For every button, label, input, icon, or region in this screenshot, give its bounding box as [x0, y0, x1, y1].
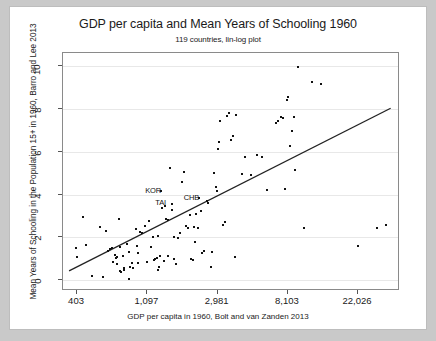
y-axis-label: Mean Years of Schooling in the Populatio… — [29, 17, 38, 307]
data-point — [303, 227, 305, 229]
data-point — [222, 224, 224, 226]
data-point — [250, 174, 252, 176]
data-point — [294, 169, 296, 171]
data-point — [141, 232, 143, 234]
data-point — [207, 202, 209, 204]
data-point — [105, 230, 107, 232]
data-point — [357, 245, 359, 247]
data-point — [173, 236, 175, 238]
data-point — [152, 236, 154, 238]
data-point — [119, 246, 121, 248]
data-point — [275, 122, 277, 124]
data-point — [218, 141, 220, 143]
data-point — [385, 224, 387, 226]
data-point — [217, 148, 219, 150]
data-point — [234, 256, 236, 258]
x-tick-label: 1,097 — [134, 295, 158, 306]
data-point — [85, 244, 87, 246]
y-tick-label: 0 — [32, 279, 43, 284]
data-point — [122, 255, 124, 257]
data-point — [219, 120, 221, 122]
data-point — [200, 210, 202, 212]
data-point — [210, 266, 212, 268]
point-label-chb: CHB — [184, 193, 199, 202]
data-point — [224, 221, 226, 223]
data-point — [161, 207, 163, 209]
data-point — [167, 219, 169, 221]
chart-subtitle: 119 countries, lin-log plot — [10, 35, 426, 44]
x-tick-label: 2,981 — [205, 295, 229, 306]
data-point — [286, 99, 288, 101]
data-point — [135, 228, 137, 230]
data-point — [112, 261, 114, 263]
data-point — [179, 232, 181, 234]
data-point — [126, 243, 128, 245]
data-point — [213, 172, 215, 174]
data-point — [123, 269, 125, 271]
data-point — [116, 256, 118, 258]
data-point — [256, 154, 258, 156]
data-point — [203, 250, 205, 252]
data-point — [282, 117, 284, 119]
data-point — [284, 188, 286, 190]
data-point — [277, 120, 279, 122]
plot-area: KORTAICHB — [62, 52, 399, 290]
data-point — [75, 247, 77, 249]
x-tick-mark — [217, 290, 218, 294]
data-point — [102, 276, 104, 278]
data-point — [320, 83, 322, 85]
data-point — [201, 252, 203, 254]
data-point — [131, 262, 133, 264]
data-point — [175, 263, 177, 265]
data-point — [146, 261, 148, 263]
data-point — [311, 81, 313, 83]
x-tick-mark — [146, 290, 147, 294]
data-point — [163, 260, 165, 262]
data-point — [230, 139, 232, 141]
x-tick-label: 22,026 — [343, 295, 372, 306]
data-point — [159, 255, 161, 257]
chart-figure: GDP per capita and Mean Years of Schooli… — [10, 7, 426, 329]
x-axis-label: GDP per capita in 1960, Bolt and van Zan… — [10, 312, 426, 321]
data-point — [177, 237, 179, 239]
data-point — [173, 258, 175, 260]
data-point — [291, 130, 293, 132]
point-label-kor: KOR — [145, 186, 161, 195]
data-point — [137, 262, 139, 264]
data-point — [232, 135, 234, 137]
data-point — [241, 173, 243, 175]
data-point — [293, 116, 295, 118]
data-point — [181, 181, 183, 183]
data-point — [169, 167, 171, 169]
y-tick-label: 10 — [32, 64, 43, 75]
x-tick-mark — [287, 290, 288, 294]
y-tick-label: 2 — [32, 236, 43, 241]
x-tick-mark — [357, 290, 358, 294]
data-point — [157, 235, 159, 237]
data-point — [228, 112, 230, 114]
data-point — [148, 220, 150, 222]
data-point — [244, 156, 246, 158]
chart-title: GDP per capita and Mean Years of Schooli… — [10, 17, 426, 31]
y-tick-label: 8 — [32, 107, 43, 112]
data-point — [171, 209, 173, 211]
point-label-tai: TAI — [155, 198, 166, 207]
data-point — [157, 269, 159, 271]
data-point — [76, 256, 78, 258]
data-point — [376, 227, 378, 229]
data-point — [91, 275, 93, 277]
data-point — [144, 225, 146, 227]
data-point — [132, 267, 134, 269]
data-point — [99, 226, 101, 228]
data-point — [194, 241, 196, 243]
data-point — [111, 247, 113, 249]
data-point — [216, 190, 218, 192]
x-tick-mark — [76, 290, 77, 294]
data-point — [187, 227, 189, 229]
data-point — [261, 156, 263, 158]
data-point — [197, 227, 199, 229]
data-point — [226, 115, 228, 117]
data-point — [167, 255, 169, 257]
data-point — [129, 266, 131, 268]
data-point — [266, 189, 268, 191]
